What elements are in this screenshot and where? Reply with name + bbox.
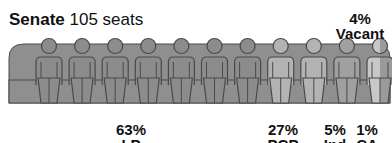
data-label-ca-name: CA: [356, 136, 378, 143]
head: [108, 39, 123, 54]
data-label-vacant-name: Vacant: [336, 25, 384, 42]
head: [174, 39, 189, 54]
head: [273, 39, 288, 54]
head: [42, 39, 57, 54]
head: [240, 39, 255, 54]
data-label-ind-name: Ind: [324, 136, 347, 143]
data-label-pcp-name: PCP: [268, 136, 299, 143]
bench-seat: [9, 80, 390, 103]
head: [141, 39, 156, 54]
head: [75, 39, 90, 54]
senate-pictogram: 63%LP27%PCP5%Ind1%CA4%Vacant: [0, 0, 392, 143]
head: [207, 39, 222, 54]
head: [306, 39, 321, 54]
data-label-lp-name: LP: [121, 136, 140, 143]
